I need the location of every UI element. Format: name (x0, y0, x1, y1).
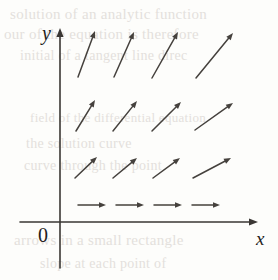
slope-field-arrow (193, 158, 231, 178)
slope-field-arrow (113, 158, 137, 178)
origin-label: 0 (38, 224, 48, 247)
slope-field-arrow (195, 103, 233, 130)
slope-field-arrow (78, 31, 95, 77)
axes-group (20, 28, 258, 268)
slope-field-arrow (152, 102, 181, 131)
slope-field-arrow (154, 202, 182, 208)
slope-field-arrow (153, 158, 180, 178)
direction-field-figure: solution of an analytic functionour of t… (0, 0, 278, 280)
x-axis-label: x (256, 228, 264, 250)
slope-field-arrow (196, 33, 233, 78)
slope-field-arrow (116, 202, 144, 208)
slope-field-arrow (152, 32, 178, 78)
slope-field-arrows (75, 31, 233, 208)
slope-field-arrow (192, 202, 220, 208)
slope-field-arrow (113, 101, 137, 131)
x-axis (20, 218, 258, 225)
slope-field-arrow (114, 32, 134, 77)
slope-field-arrow (76, 100, 95, 131)
slope-field-arrow (75, 157, 97, 178)
y-axis (56, 28, 63, 268)
slope-field-arrow (78, 202, 106, 208)
y-axis-label: y (42, 22, 51, 45)
